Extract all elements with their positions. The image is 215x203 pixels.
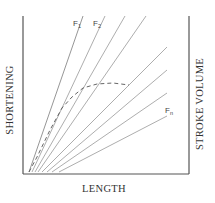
x-axis-label: LENGTH (82, 183, 126, 194)
stroke-volume-diagram: F1F2Fn LENGTH SHORTENING STROKE VOLUME (0, 0, 215, 203)
line-label-F1: F1 (73, 19, 81, 29)
fan-line-6 (47, 70, 167, 172)
y-axis-label-right: STROKE VOLUME (194, 58, 205, 150)
fan-line-8 (59, 116, 167, 172)
line-labels: F1F2Fn (73, 19, 173, 116)
line-label-F2: F2 (93, 19, 101, 29)
fan-lines (29, 16, 167, 172)
fan-line-4 (38, 16, 146, 172)
line-label-Fn: Fn (165, 106, 173, 116)
fan-line-3 (35, 16, 125, 172)
y-axis-label-left: SHORTENING (4, 65, 15, 135)
fan-line-2 (32, 16, 105, 172)
